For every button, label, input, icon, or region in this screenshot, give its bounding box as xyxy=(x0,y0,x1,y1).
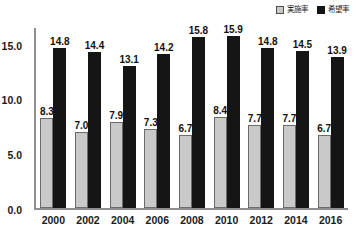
y-axis-tick-label: 15.0 xyxy=(0,40,22,52)
bar-group: 7.314.2 xyxy=(144,28,170,208)
bar-value-label: 7.0 xyxy=(75,120,89,131)
x-axis-tick-label: 2016 xyxy=(319,214,342,226)
bar-rect xyxy=(179,135,192,208)
bar-actual[interactable]: 7.0 xyxy=(75,28,88,208)
bar-rect xyxy=(261,48,274,208)
bar-rect xyxy=(144,129,157,208)
bar-rect xyxy=(248,125,261,208)
bar-actual[interactable]: 7.7 xyxy=(283,28,296,208)
bar-value-label: 14.8 xyxy=(258,36,277,47)
bar-group: 6.713.9 xyxy=(318,28,344,208)
x-axis-tick-label: 2004 xyxy=(111,214,134,226)
bar-desired[interactable]: 14.2 xyxy=(157,28,170,208)
bar-value-label: 7.3 xyxy=(144,117,158,128)
bar-desired[interactable]: 15.8 xyxy=(192,28,205,208)
bar-rect xyxy=(53,48,66,208)
bar-value-label: 14.8 xyxy=(50,36,69,47)
legend-label: 希望率 xyxy=(328,5,349,14)
bar-group: 7.714.8 xyxy=(248,28,274,208)
bar-value-label: 14.2 xyxy=(154,42,173,53)
bar-rect xyxy=(157,54,170,208)
bar-value-label: 8.4 xyxy=(213,105,227,116)
bar-actual[interactable]: 7.3 xyxy=(144,28,157,208)
bar-value-label: 14.5 xyxy=(293,39,312,50)
plot-area: 8.314.87.014.47.913.17.314.26.715.88.415… xyxy=(34,28,348,210)
x-axis-tick-label: 2012 xyxy=(250,214,273,226)
y-axis-tick-label: 10.0 xyxy=(0,94,22,106)
x-axis-tick-labels: 200020022004200620082010201220142016 xyxy=(36,214,348,226)
bar-rect xyxy=(75,132,88,208)
y-axis-tick-label: 0.0 xyxy=(0,204,22,216)
legend-entry-1[interactable]: 希望率 xyxy=(317,5,349,14)
bar-rect xyxy=(123,66,136,208)
x-axis-tick-label: 2006 xyxy=(146,214,169,226)
bar-value-label: 14.4 xyxy=(85,40,104,51)
bar-groups: 8.314.87.014.47.913.17.314.26.715.88.415… xyxy=(36,28,348,208)
legend-entry-0[interactable]: 実施率 xyxy=(276,5,308,14)
bar-value-label: 7.7 xyxy=(282,113,296,124)
bar-value-label: 7.9 xyxy=(109,110,123,121)
bar-rect xyxy=(192,37,205,208)
bar-actual[interactable]: 8.3 xyxy=(40,28,53,208)
x-axis-tick-label: 2002 xyxy=(76,214,99,226)
bar-group: 7.014.4 xyxy=(75,28,101,208)
bar-desired[interactable]: 13.9 xyxy=(331,28,344,208)
bar-actual[interactable]: 7.7 xyxy=(248,28,261,208)
legend-label: 実施率 xyxy=(287,5,308,14)
legend-swatch-icon xyxy=(317,6,325,14)
bar-rect xyxy=(214,117,227,208)
bar-actual[interactable]: 8.4 xyxy=(214,28,227,208)
bar-chart: 実施率希望率 8.314.87.014.47.913.17.314.26.715… xyxy=(0,0,356,244)
x-axis-tick-label: 2000 xyxy=(42,214,65,226)
bar-group: 8.314.8 xyxy=(40,28,66,208)
bar-value-label: 8.3 xyxy=(40,106,54,117)
bar-desired[interactable]: 15.9 xyxy=(227,28,240,208)
bar-value-label: 6.7 xyxy=(317,123,331,134)
x-axis-tick-label: 2010 xyxy=(215,214,238,226)
bar-group: 6.715.8 xyxy=(179,28,205,208)
bar-group: 7.913.1 xyxy=(110,28,136,208)
bar-desired[interactable]: 14.8 xyxy=(261,28,274,208)
bar-group: 8.415.9 xyxy=(214,28,240,208)
bar-rect xyxy=(283,125,296,208)
bar-rect xyxy=(110,122,123,208)
x-axis-line xyxy=(34,208,348,210)
bar-rect xyxy=(227,36,240,208)
bar-rect xyxy=(40,118,53,208)
bar-value-label: 15.8 xyxy=(189,25,208,36)
bar-rect xyxy=(88,52,101,208)
x-axis-tick-label: 2008 xyxy=(180,214,203,226)
bar-actual[interactable]: 6.7 xyxy=(179,28,192,208)
bar-rect xyxy=(331,57,344,208)
bar-desired[interactable]: 14.8 xyxy=(53,28,66,208)
chart-legend: 実施率希望率 xyxy=(276,3,349,16)
bar-desired[interactable]: 13.1 xyxy=(123,28,136,208)
bar-desired[interactable]: 14.4 xyxy=(88,28,101,208)
bar-value-label: 7.7 xyxy=(248,113,262,124)
bar-value-label: 13.1 xyxy=(119,54,138,65)
bar-desired[interactable]: 14.5 xyxy=(296,28,309,208)
bar-rect xyxy=(296,51,309,208)
y-axis-tick-label: 5.0 xyxy=(0,149,22,161)
bar-value-label: 15.9 xyxy=(223,24,242,35)
bar-group: 7.714.5 xyxy=(283,28,309,208)
bar-rect xyxy=(318,135,331,208)
x-axis-tick-label: 2014 xyxy=(284,214,307,226)
bar-value-label: 6.7 xyxy=(179,123,193,134)
legend-swatch-icon xyxy=(276,6,284,14)
bar-value-label: 13.9 xyxy=(327,45,346,56)
